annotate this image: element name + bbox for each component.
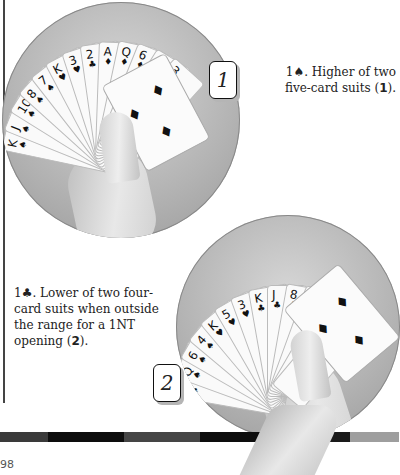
figure-badge-1: 1 bbox=[209, 61, 237, 99]
caption-bid: 1 bbox=[14, 286, 22, 300]
photo-hand-of-cards-1: K♠J♠10♠8♠7♠K♥3♥2♣A♦Q♦6♦4♦3♦ ♦ ♦ ♦ bbox=[2, 2, 240, 238]
caption-ref: 1 bbox=[379, 81, 387, 95]
footer-bar-seg bbox=[124, 432, 200, 442]
club-icon: ♣ bbox=[22, 286, 33, 300]
footer-bar-seg bbox=[350, 432, 399, 442]
card-suit-icon: ♠ bbox=[190, 386, 200, 396]
card-suit-icon: ♣ bbox=[88, 60, 97, 70]
figure-badge-2: 2 bbox=[153, 364, 181, 402]
caption-1: 1♠. Higher of two five-card suits (1). bbox=[268, 64, 396, 96]
card-suit-icon: ♦ bbox=[104, 58, 112, 67]
footer-bar-seg bbox=[0, 432, 48, 442]
caption-ref: 2 bbox=[71, 334, 79, 348]
page-margin-rule bbox=[3, 0, 5, 403]
card-suit-icon: ♠ bbox=[18, 140, 28, 150]
caption-end: ). bbox=[388, 81, 397, 95]
card-suit-icon: ♣ bbox=[257, 303, 267, 313]
card-suit-icon: ♥ bbox=[241, 309, 252, 320]
page-number: 98 bbox=[0, 458, 14, 471]
card-suit-icon: ♠ bbox=[192, 370, 203, 381]
card-suit-icon: ♥ bbox=[72, 65, 82, 76]
footer-bar-seg bbox=[48, 432, 124, 442]
caption-end: ). bbox=[80, 334, 89, 348]
caption-2: 1♣. Lower of two four-card suits when ou… bbox=[14, 285, 174, 349]
spade-icon: ♠ bbox=[293, 65, 304, 79]
card-suit-icon: ♣ bbox=[273, 301, 281, 310]
